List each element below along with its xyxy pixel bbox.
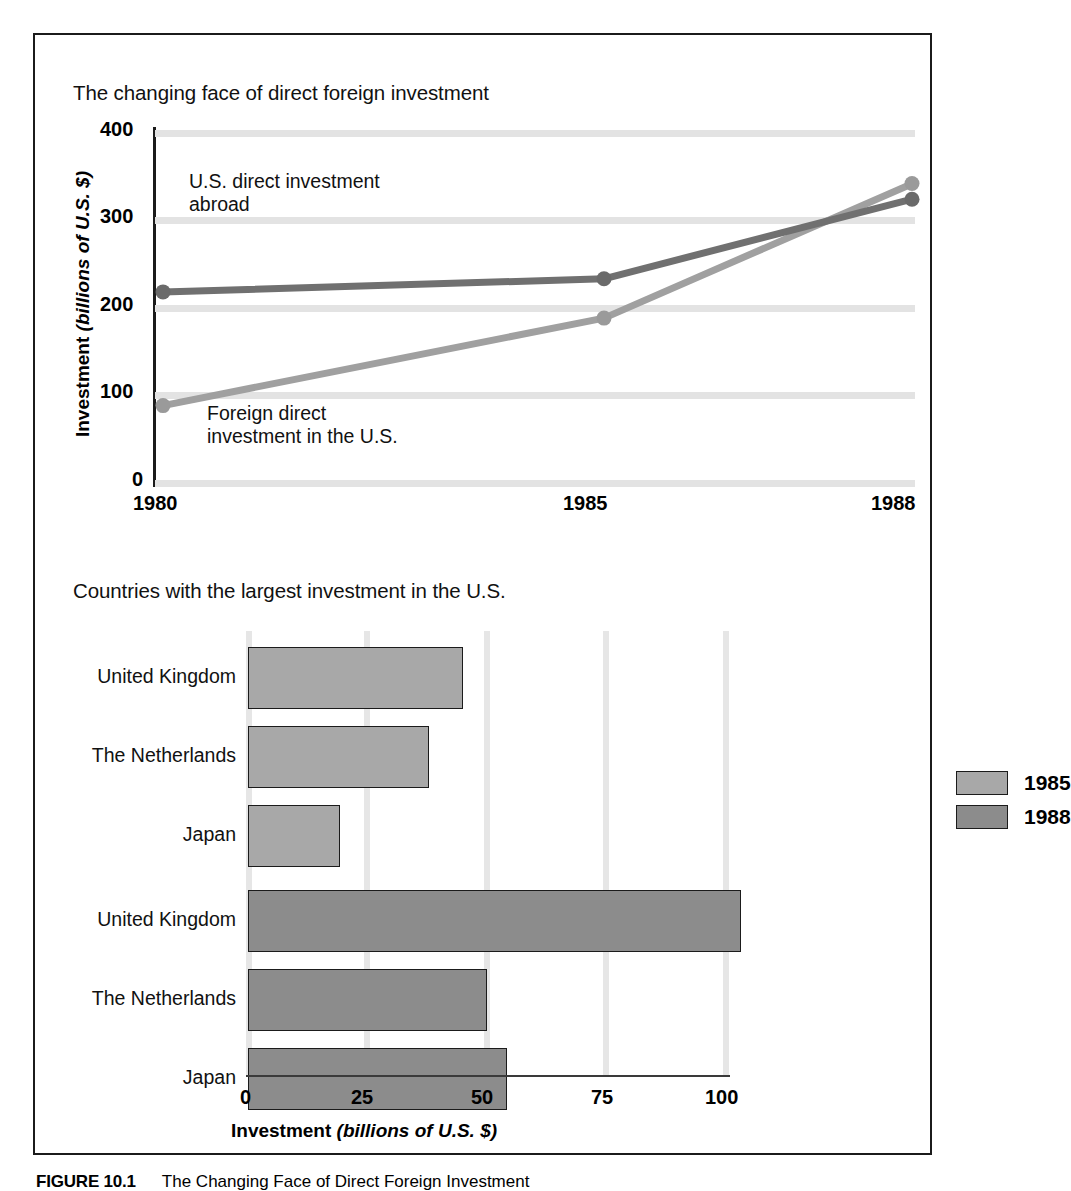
figure-caption-text: The Changing Face of Direct Foreign Inve… — [162, 1172, 530, 1191]
point-foreign-1988 — [905, 176, 920, 191]
point-us-abroad-1980 — [156, 284, 171, 299]
line-xtick-1988: 1988 — [871, 492, 916, 515]
bar-xtick-75: 75 — [591, 1086, 613, 1109]
bar-gridline-75 — [603, 631, 609, 1075]
line-series-foreign-in-us — [163, 183, 915, 406]
annotation-us-direct-investment-abroad: U.S. direct investment abroad — [189, 170, 380, 215]
point-us-abroad-1985 — [597, 271, 612, 286]
bar-x-axis-label-units: (billions of U.S. $) — [337, 1120, 497, 1141]
line-ytick-100: 100 — [100, 380, 133, 403]
line-chart-title: The changing face of direct foreign inve… — [73, 81, 489, 105]
point-us-abroad-1988 — [905, 192, 920, 207]
bar-category-united-kingdom-1988: United Kingdom — [46, 908, 236, 931]
line-ytick-200: 200 — [100, 293, 133, 316]
bar-chart-title: Countries with the largest investment in… — [73, 579, 506, 603]
bar-chart-panel: Countries with the largest investment in… — [35, 535, 934, 1155]
bar-chart-x-axis — [246, 1075, 730, 1077]
bar-united-kingdom-1985 — [248, 647, 463, 709]
legend-swatch-1985 — [956, 771, 1008, 795]
bar-chart-plot-area: 1985 1988 — [246, 631, 730, 1075]
bar-chart-x-axis-label: Investment (billions of U.S. $) — [231, 1120, 497, 1142]
legend-item-1988: 1988 — [956, 805, 1071, 829]
line-xtick-1985: 1985 — [563, 492, 608, 515]
point-foreign-1980 — [156, 398, 171, 413]
annotation-foreign-direct-investment-in-us: Foreign direct investment in the U.S. — [207, 402, 398, 447]
legend-item-1985: 1985 — [956, 771, 1071, 795]
bar-category-the-netherlands-1988: The Netherlands — [46, 987, 236, 1010]
legend-label-1985: 1985 — [1024, 771, 1071, 795]
line-ytick-400: 400 — [100, 118, 133, 141]
line-chart-y-axis-label: Investment (billions of U.S. $) — [72, 154, 94, 454]
line-ytick-0: 0 — [132, 468, 143, 491]
figure-caption-number: FIGURE 10.1 — [36, 1172, 136, 1191]
legend-swatch-1988 — [956, 805, 1008, 829]
y-axis-label-units: (billions of U.S. $) — [72, 171, 93, 331]
bar-category-japan-1988: Japan — [46, 1066, 236, 1089]
bar-japan-1985 — [248, 805, 340, 867]
line-chart-panel: The changing face of direct foreign inve… — [35, 35, 934, 535]
line-xtick-1980: 1980 — [133, 492, 178, 515]
bar-the-netherlands-1985 — [248, 726, 429, 788]
bar-xtick-100: 100 — [705, 1086, 738, 1109]
legend-label-1988: 1988 — [1024, 805, 1071, 829]
y-axis-label-plain: Investment — [72, 331, 93, 437]
bar-the-netherlands-1988 — [248, 969, 487, 1031]
figure-frame: The changing face of direct foreign inve… — [33, 33, 932, 1155]
bar-chart-legend: 1985 1988 — [956, 771, 1071, 839]
figure-caption: FIGURE 10.1The Changing Face of Direct F… — [36, 1172, 936, 1191]
bar-united-kingdom-1988 — [248, 890, 741, 952]
bar-xtick-50: 50 — [471, 1086, 493, 1109]
bar-category-japan-1985: Japan — [46, 823, 236, 846]
bar-xtick-0: 0 — [240, 1086, 251, 1109]
line-chart-plot-area: U.S. direct investment abroad Foreign di… — [155, 130, 915, 480]
point-foreign-1985 — [597, 311, 612, 326]
line-ytick-300: 300 — [100, 205, 133, 228]
bar-xtick-25: 25 — [351, 1086, 373, 1109]
bar-category-the-netherlands-1985: The Netherlands — [46, 744, 236, 767]
bar-x-axis-label-plain: Investment — [231, 1120, 337, 1141]
bar-category-united-kingdom-1985: United Kingdom — [46, 665, 236, 688]
bar-japan-1988 — [248, 1048, 507, 1110]
bar-gridline-100 — [723, 631, 729, 1075]
